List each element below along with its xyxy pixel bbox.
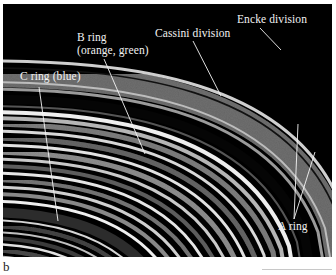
cassini-division-label: Cassini division — [155, 27, 230, 40]
b-ring-label-line1: B ring — [77, 31, 107, 44]
image-credit-line — [262, 269, 332, 270]
saturn-rings-photo: B ring (orange, green) C ring (blue) Cas… — [3, 4, 332, 257]
encke-division-label: Encke division — [237, 13, 307, 26]
panel-letter: b — [3, 259, 10, 275]
a-ring-label: A ring — [278, 220, 308, 233]
c-ring-label: C ring (blue) — [20, 70, 81, 83]
b-ring-label-line2: (orange, green) — [77, 44, 149, 57]
